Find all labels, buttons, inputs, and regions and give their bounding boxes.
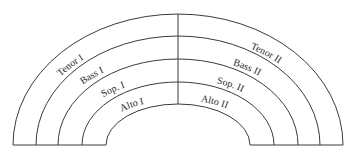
- section-label-left-4: Alto I: [118, 95, 145, 113]
- section-label-left-3: Sop. I: [99, 79, 126, 99]
- section-label-left-2: Bass I: [78, 64, 105, 86]
- section-label-right-4: Alto II: [200, 93, 230, 110]
- seating-diagram: Tenor I Bass I Sop. I Alto I Tenor II Ba…: [0, 0, 360, 153]
- section-label-right-3: Sop. II: [216, 75, 246, 94]
